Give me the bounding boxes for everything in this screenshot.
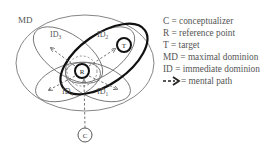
md-label: MD [18,15,33,25]
legend-item-maximal-dominion: MD = maximal dominion [163,51,260,63]
dashed-arrow-icon [163,76,181,86]
legend: C = conceptualizer R = reference point T… [163,15,260,87]
legend-text: = target [171,39,200,51]
legend-text: = immediate dominion [175,63,260,75]
legend-key: MD [163,51,178,63]
id1-label: ID1 [97,87,108,97]
id4-label: ID4 [62,87,73,97]
mental-path-arrow [51,48,75,66]
immediate-dominion-3-ellipse [24,16,112,95]
target-label: T [122,42,127,50]
reference-point-label: R [80,68,85,76]
legend-key: ID [163,63,173,75]
conceptualizer-label: C [83,132,88,140]
legend-item-mental-path: = mental path [163,75,260,87]
legend-key: R [163,27,169,39]
id2-label: ID2 [97,30,108,40]
legend-text: = mental path [181,75,232,87]
legend-text: = reference point [172,27,236,39]
mental-path-arrow [84,80,85,128]
legend-text: = conceptualizer [172,15,234,27]
legend-key: C [163,15,169,27]
id3-label: ID3 [50,30,61,40]
legend-item-conceptualizer: C = conceptualizer [163,15,260,27]
legend-item-reference-point: R = reference point [163,27,260,39]
legend-item-immediate-dominion: ID = immediate dominion [163,63,260,75]
legend-key: T [163,39,169,51]
mental-path-arrow [89,49,115,66]
legend-text: = maximal dominion [180,51,258,63]
legend-item-target: T = target [163,39,260,51]
maximal-dominion-ellipse [16,15,154,111]
